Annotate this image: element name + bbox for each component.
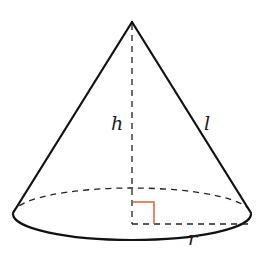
right-angle-marker <box>133 202 154 224</box>
base-ellipse-front <box>13 214 251 240</box>
slant-height-label: l <box>204 114 210 133</box>
cone-diagram: h l r <box>0 0 268 264</box>
radius-label: r <box>188 229 197 248</box>
cone-figure <box>0 0 268 264</box>
cone-right-side <box>132 22 251 213</box>
height-label: h <box>111 114 123 133</box>
